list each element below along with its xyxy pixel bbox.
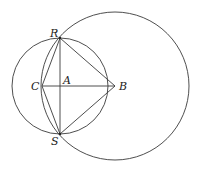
label-A: A — [62, 74, 71, 87]
geometry-diagram: R C A B S — [0, 0, 198, 170]
point-R — [59, 37, 61, 39]
segment-SB — [60, 86, 115, 134]
point-S — [59, 133, 61, 135]
label-B: B — [118, 80, 127, 93]
label-S: S — [51, 135, 59, 148]
label-C: C — [31, 80, 40, 93]
label-R: R — [49, 27, 58, 40]
